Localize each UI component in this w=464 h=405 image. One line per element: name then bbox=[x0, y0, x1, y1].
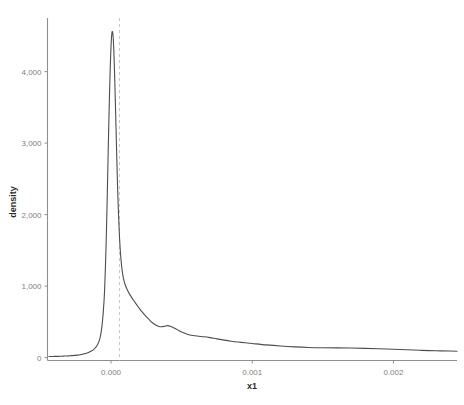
y-tick-label: 0 bbox=[37, 354, 42, 363]
density-plot-svg: 01,0002,0003,0004,000 0.0000.0010.002 x1… bbox=[0, 0, 464, 405]
x-tick-label: 0.002 bbox=[383, 368, 404, 377]
y-tick-label: 4,000 bbox=[21, 68, 42, 77]
x-axis-title: x1 bbox=[247, 381, 257, 391]
y-axis-title: density bbox=[8, 186, 18, 218]
y-tick-label: 2,000 bbox=[21, 211, 42, 220]
y-tick-label: 3,000 bbox=[21, 139, 42, 148]
plot-background bbox=[0, 0, 464, 405]
x-tick-label: 0.001 bbox=[242, 368, 263, 377]
x-tick-label: 0.000 bbox=[101, 368, 122, 377]
density-plot-panel: 01,0002,0003,0004,000 0.0000.0010.002 x1… bbox=[0, 0, 464, 405]
y-tick-label: 1,000 bbox=[21, 282, 42, 291]
